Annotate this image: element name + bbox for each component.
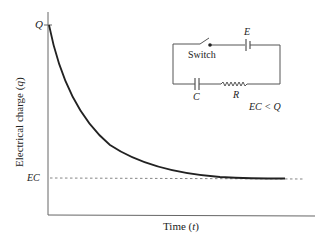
rc-circuit [173,38,280,90]
plot-svg [0,0,332,243]
ec-tick-label: EC [27,173,40,183]
resistor-label: R [233,90,239,100]
y-axis-label-var: q [13,81,25,87]
x-axis-label-text: Time ( [163,220,192,232]
x-axis-label-close: ) [195,220,199,232]
figure: Q EC Time (t) Electrical charge (q) E Sw… [0,0,332,243]
resistor-zigzag [221,82,247,86]
y-axis-label: Electrical charge (q) [14,77,25,167]
switch-contact-dot [208,43,212,47]
switch-blade [200,38,209,44]
capacitor-label: C [193,92,200,102]
battery-label: E [244,27,250,37]
y-axis-label-close: ) [13,77,25,81]
condition-label: EC < Q [249,102,281,112]
q-tick-label: Q [35,19,43,30]
x-axis [48,215,315,216]
switch-label: Switch [188,50,216,60]
y-axis-label-text: Electrical charge ( [13,87,25,167]
x-axis-label: Time (t) [163,221,199,232]
